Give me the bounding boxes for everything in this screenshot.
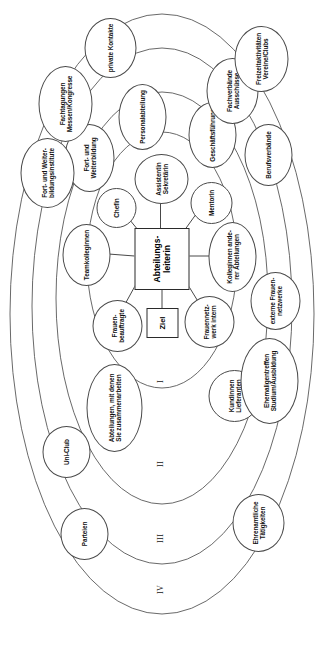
node-teamkolleginnen[interactable]: Teamkolleginnen	[62, 224, 110, 286]
node-chefin[interactable]: Chefin	[96, 188, 136, 228]
node-abteilungen-zusammenarbeit[interactable]: Abteilungen, mit denen Sie zusammenarbei…	[86, 364, 142, 452]
node-uni-club[interactable]: Uni-Club	[42, 426, 90, 478]
node-ehrenamtliche-taetigkeiten[interactable]: Ehrenamtliche Tätigkeiten	[232, 494, 284, 552]
node-frauenbeauftragte[interactable]: Frauen- beauftragte	[92, 300, 142, 352]
diagram-page: I II III IV Ziel Abteilungs- leiterin Fr…	[0, 0, 323, 648]
diagram-stage: I II III IV Ziel Abteilungs- leiterin Fr…	[0, 0, 323, 648]
ring-label-i: I	[155, 380, 164, 383]
node-freizeitaktivitaeten[interactable]: Freizeitaktivitäten Vereine/Clubs	[234, 26, 288, 92]
node-externe-frauennetzwerke[interactable]: externe Frauen- netzwerke	[250, 272, 300, 330]
node-private-kontakte[interactable]: private Kontakte	[84, 18, 136, 78]
node-fachtagungen-messen-kongresse[interactable]: Fachtagungen Messen/Kongresse	[38, 66, 92, 142]
ring-label-iii: III	[155, 534, 164, 543]
node-parteien[interactable]: Parteien	[60, 508, 108, 560]
node-ehemaligentreffen[interactable]: Ehemaligentreffen Studium/Ausbildung	[240, 338, 298, 424]
ring-label-ii: II	[155, 461, 164, 467]
node-mentorin[interactable]: Mentorin	[190, 182, 232, 224]
node-fort-und-weiterbildungsinstitute[interactable]: Fort- und Weiter- bildungsinstitute	[20, 138, 74, 208]
node-assistentin-sekretaerin[interactable]: Assistentin Sekretärin	[134, 154, 188, 204]
goal-box: Ziel	[146, 308, 178, 338]
node-kolleginnen-anderer-abteilungen[interactable]: Kolleginnen ande- rer Abteilungen	[208, 222, 256, 292]
connector-teamkolleginnen	[108, 254, 134, 256]
node-berufsverbaende[interactable]: Berufsverbände	[244, 124, 292, 186]
rotated-diagram-wrapper: I II III IV Ziel Abteilungs- leiterin Fr…	[0, 0, 323, 648]
ring-label-iv: IV	[155, 585, 164, 594]
node-personalabteilung[interactable]: Personalabteilung	[118, 84, 166, 150]
node-frauennetzwerk-intern[interactable]: Frauennetz- werk intern	[184, 296, 234, 348]
center-role-box: Abteilungs- leiterin	[134, 228, 189, 290]
